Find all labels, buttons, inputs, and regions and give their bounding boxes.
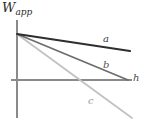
y-axis-label-subscript: app	[15, 7, 32, 17]
curve-line-c	[17, 34, 132, 118]
curve-label-c: c	[88, 96, 94, 106]
plot-figure: Wapp a b c h	[0, 0, 145, 121]
curve-line-b	[17, 34, 128, 80]
curve-label-a: a	[103, 34, 109, 44]
curve-line-a	[17, 34, 130, 51]
x-axis-label-h: h	[133, 73, 139, 83]
curve-label-b: b	[103, 60, 109, 70]
y-axis-label-main: W	[2, 0, 15, 15]
y-axis-label: Wapp	[2, 1, 32, 17]
plot-canvas	[0, 0, 145, 121]
